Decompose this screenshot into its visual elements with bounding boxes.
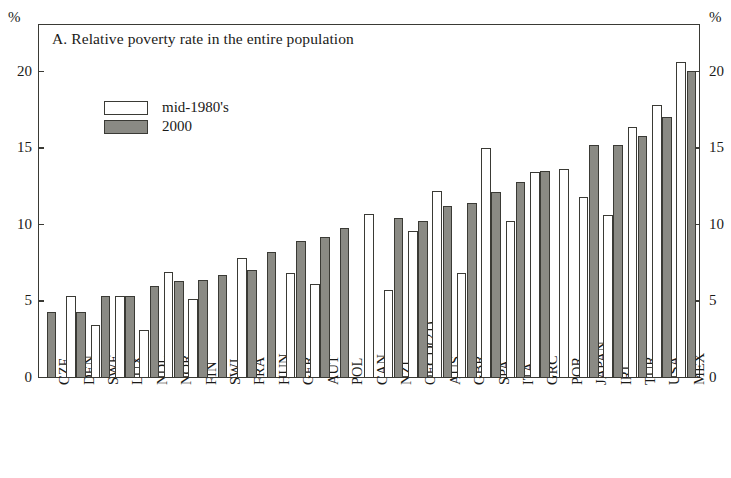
y-tick-mark-left-20 [38, 71, 44, 73]
bar-den-mid1980s [66, 296, 76, 377]
bar-pol-2000 [340, 228, 350, 378]
bar-group-oecd21 [406, 26, 430, 378]
bar-nzl-mid1980s [384, 290, 394, 377]
bar-group-tur [625, 26, 649, 378]
bar-spa-2000 [491, 192, 501, 377]
y-tick-label-left-5: 5 [6, 293, 32, 308]
bar-group-pol [332, 26, 356, 378]
bar-tur-mid1980s [628, 127, 638, 378]
bar-ndl-mid1980s [139, 330, 149, 377]
y-tick-label-right-10: 10 [709, 217, 731, 232]
bar-group-swe [88, 26, 112, 378]
bar-nzl-2000 [394, 218, 404, 377]
bar-group-por [552, 26, 576, 378]
chart-figure: % % A. Relative poverty rate in the enti… [0, 0, 731, 478]
bar-usa-2000 [662, 117, 672, 377]
bar-group-aus [430, 26, 454, 378]
x-axis-label-pol: POL [350, 357, 365, 384]
y-axis-unit-right: % [709, 10, 722, 25]
bar-group-ger [284, 26, 308, 378]
bar-oecd21-2000 [418, 221, 428, 377]
bar-hun-2000 [267, 252, 277, 377]
bar-spa-mid1980s [481, 148, 491, 378]
bar-group-spa [479, 26, 503, 378]
bar-group-can [357, 26, 381, 378]
bar-por-mid1980s [559, 169, 569, 377]
bar-group-aut [308, 26, 332, 378]
bar-series-container [40, 26, 699, 378]
bar-swe-2000 [101, 296, 111, 377]
bar-group-grc [528, 26, 552, 378]
bar-mex-mid1980s [676, 62, 686, 377]
bar-group-fra [235, 26, 259, 378]
bar-ita-mid1980s [506, 221, 516, 377]
bar-fra-mid1980s [237, 258, 247, 377]
bar-gbr-mid1980s [457, 273, 467, 377]
bar-den-2000 [76, 312, 86, 378]
bar-fin-mid1980s [188, 299, 198, 377]
bar-cze-2000 [47, 312, 57, 378]
y-tick-label-left-20: 20 [6, 64, 32, 79]
bar-group-cze [40, 26, 64, 378]
bar-aut-mid1980s [310, 284, 320, 377]
bar-tur-2000 [638, 136, 648, 378]
y-tick-label-right-5: 5 [709, 293, 731, 308]
bar-group-den [64, 26, 88, 378]
bar-aus-mid1980s [432, 191, 442, 378]
bar-group-hun [259, 26, 283, 378]
y-tick-mark-left-15 [38, 147, 44, 149]
bar-irl-mid1980s [603, 215, 613, 377]
bar-fin-2000 [198, 280, 208, 378]
bar-group-japan [576, 26, 600, 378]
bar-nor-2000 [174, 281, 184, 377]
bar-grc-mid1980s [530, 172, 540, 377]
bar-usa-mid1980s [652, 105, 662, 377]
y-tick-label-left-10: 10 [6, 217, 32, 232]
bar-mex-2000 [687, 71, 697, 377]
y-tick-mark-left-10 [38, 224, 44, 226]
bar-group-nor [162, 26, 186, 378]
bar-group-gbr [454, 26, 478, 378]
bar-lux-mid1980s [115, 296, 125, 377]
y-axis-unit-left: % [8, 10, 21, 25]
bar-gbr-2000 [467, 203, 477, 377]
bar-aus-2000 [443, 206, 453, 377]
bar-group-swi [210, 26, 234, 378]
bar-japan-mid1980s [579, 197, 589, 378]
y-tick-label-left-15: 15 [6, 140, 32, 155]
bar-nor-mid1980s [164, 272, 174, 378]
bar-swi-2000 [218, 275, 228, 378]
bar-group-irl [601, 26, 625, 378]
bar-group-ita [503, 26, 527, 378]
bar-fra-2000 [247, 270, 257, 377]
bar-aut-2000 [320, 237, 330, 378]
bar-lux-2000 [125, 296, 135, 377]
bar-swe-mid1980s [91, 325, 101, 377]
bar-ndl-2000 [150, 286, 160, 378]
y-tick-label-right-15: 15 [709, 140, 731, 155]
bar-ger-mid1980s [286, 273, 296, 377]
bar-ger-2000 [296, 241, 306, 377]
y-tick-label-right-0: 0 [709, 370, 731, 385]
bar-oecd21-mid1980s [408, 231, 418, 378]
bar-irl-2000 [613, 145, 623, 378]
bar-grc-2000 [540, 171, 550, 378]
bar-group-ndl [137, 26, 161, 378]
bar-group-lux [113, 26, 137, 378]
y-tick-mark-left-5 [38, 300, 44, 302]
y-tick-label-left-0: 0 [6, 370, 32, 385]
bar-group-usa [650, 26, 674, 378]
y-tick-label-right-20: 20 [709, 64, 731, 79]
bar-ita-2000 [516, 182, 526, 378]
bar-group-nzl [381, 26, 405, 378]
bar-can-mid1980s [364, 214, 374, 378]
bar-group-fin [186, 26, 210, 378]
bar-group-mex [674, 26, 698, 378]
bar-japan-2000 [589, 145, 599, 378]
